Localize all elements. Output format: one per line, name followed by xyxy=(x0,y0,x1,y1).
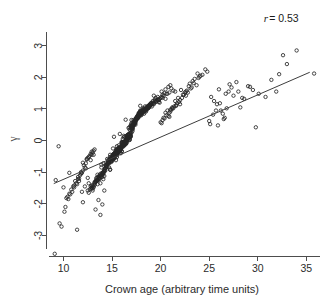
y-tick-label: -2 xyxy=(32,199,44,208)
y-tick-label: 0 xyxy=(32,138,44,144)
scatter-plot-figure: 101520253035-3-2-10123Crown age (arbitra… xyxy=(0,0,330,304)
x-tick-label: 20 xyxy=(155,262,167,274)
x-tick-label: 25 xyxy=(203,262,215,274)
x-tick-label: 10 xyxy=(58,262,70,274)
x-axis-title: Crown age (arbitrary time units) xyxy=(105,283,259,295)
y-tick-label: 2 xyxy=(32,74,44,80)
x-tick-label: 30 xyxy=(252,262,264,274)
y-tick-label: -3 xyxy=(32,231,44,240)
y-tick-label: 1 xyxy=(32,106,44,112)
correlation-symbol: r xyxy=(264,12,269,24)
y-tick-label: 3 xyxy=(32,43,44,49)
x-tick-label: 35 xyxy=(300,262,312,274)
y-axis-title: γ xyxy=(7,136,20,142)
plot-background xyxy=(0,0,330,304)
x-tick-label: 15 xyxy=(106,262,118,274)
correlation-value: = 0.53 xyxy=(269,12,299,24)
y-tick-label: -1 xyxy=(32,167,44,176)
plot-canvas: 101520253035-3-2-10123Crown age (arbitra… xyxy=(0,0,330,304)
correlation-annotation: r= 0.53 xyxy=(264,12,299,24)
